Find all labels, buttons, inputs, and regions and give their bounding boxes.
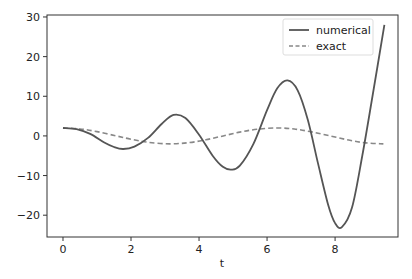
x-tick-label: 6 bbox=[264, 243, 271, 256]
legend: numerical exact bbox=[283, 19, 373, 55]
x-axis-ticks: 02468 bbox=[59, 237, 338, 256]
y-tick-label: −20 bbox=[17, 209, 40, 222]
legend-label-exact: exact bbox=[316, 40, 347, 53]
y-tick-label: 20 bbox=[26, 51, 40, 64]
y-tick-label: 0 bbox=[33, 130, 40, 143]
x-tick-label: 2 bbox=[128, 243, 135, 256]
y-tick-label: −10 bbox=[17, 170, 40, 183]
legend-label-numerical: numerical bbox=[316, 24, 371, 37]
y-tick-label: 30 bbox=[26, 11, 40, 24]
y-axis-ticks: −20−100102030 bbox=[17, 11, 47, 222]
x-tick-label: 4 bbox=[196, 243, 203, 256]
y-tick-label: 10 bbox=[26, 90, 40, 103]
x-axis-label: t bbox=[220, 257, 225, 270]
x-tick-label: 0 bbox=[59, 243, 66, 256]
x-tick-label: 8 bbox=[332, 243, 339, 256]
chart: 02468 −20−100102030 t numerical exact bbox=[0, 0, 412, 279]
